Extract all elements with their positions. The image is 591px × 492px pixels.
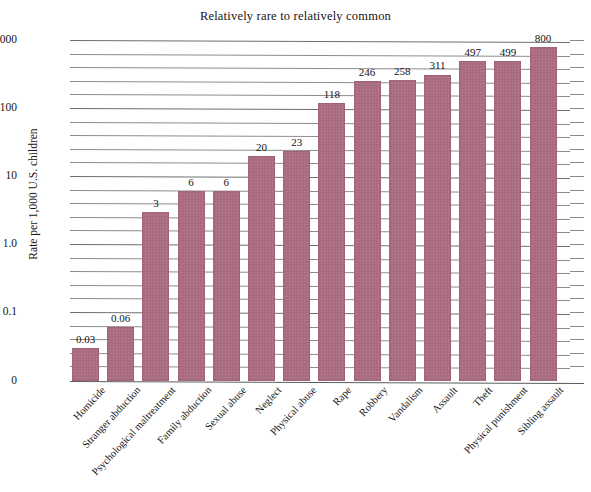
bar-value-label: 0.06 bbox=[101, 312, 140, 324]
tick-mark bbox=[570, 149, 584, 150]
bar-value-label: 0.03 bbox=[66, 333, 105, 345]
tick-mark bbox=[570, 285, 584, 286]
bar bbox=[142, 212, 169, 381]
tick-mark bbox=[570, 244, 584, 245]
x-axis-label: Neglect bbox=[252, 383, 282, 414]
tick-mark bbox=[570, 176, 584, 177]
y-tick-label: 0 bbox=[11, 374, 17, 386]
x-axis-label: Homicide bbox=[70, 383, 106, 421]
x-axis-label: Robbery bbox=[355, 383, 388, 417]
tick-mark bbox=[570, 162, 584, 163]
bar-value-label: 800 bbox=[524, 32, 563, 44]
bar-value-label: 23 bbox=[277, 136, 316, 148]
bar-value-label: 6 bbox=[172, 176, 211, 188]
tick-mark bbox=[570, 203, 584, 204]
bar-value-label: 20 bbox=[242, 141, 281, 153]
y-tick-label: 100 bbox=[0, 101, 17, 113]
bar bbox=[354, 81, 381, 381]
bar bbox=[318, 103, 345, 381]
x-axis-category-labels: HomicideStranger abductionPsychological … bbox=[70, 383, 591, 492]
bar bbox=[213, 191, 240, 381]
x-axis-label: Rape bbox=[330, 383, 353, 406]
y-tick-label: 0.1 bbox=[3, 305, 17, 317]
chart-figure: Relatively rare to relatively common Rat… bbox=[0, 0, 591, 492]
tick-mark bbox=[570, 40, 584, 41]
plot-area: 0.030.063662023118246258311497499800 bbox=[70, 40, 570, 381]
bar bbox=[389, 80, 416, 381]
tick-mark bbox=[570, 217, 584, 218]
tick-mark bbox=[570, 271, 584, 272]
tick-mark bbox=[570, 190, 584, 191]
tick-mark bbox=[570, 54, 584, 55]
bar bbox=[72, 348, 99, 381]
tick-mark bbox=[570, 67, 584, 68]
tick-mark bbox=[570, 353, 584, 354]
bar bbox=[248, 156, 275, 381]
tick-mark bbox=[570, 298, 584, 299]
bar-value-label: 118 bbox=[312, 88, 351, 100]
tick-mark bbox=[570, 366, 584, 367]
bar-value-label: 3 bbox=[136, 197, 175, 209]
bar-value-label: 311 bbox=[418, 59, 457, 71]
tick-mark bbox=[570, 312, 584, 313]
tick-mark bbox=[570, 339, 584, 340]
bar-value-label: 6 bbox=[207, 176, 246, 188]
x-axis-label: Vandalism bbox=[385, 383, 423, 423]
bar bbox=[424, 75, 451, 382]
tick-mark bbox=[570, 230, 584, 231]
x-axis-label: Theft bbox=[470, 383, 494, 407]
tick-mark bbox=[570, 108, 584, 109]
tick-mark bbox=[570, 122, 584, 123]
tick-mark bbox=[570, 258, 584, 259]
tick-mark bbox=[570, 326, 584, 327]
y-tick-label: 1000 bbox=[0, 33, 17, 45]
bar bbox=[107, 327, 134, 381]
tick-mark bbox=[570, 135, 584, 136]
bar bbox=[459, 61, 486, 381]
gridline-major bbox=[70, 40, 570, 43]
bar-value-label: 499 bbox=[488, 46, 527, 58]
bar-value-label: 258 bbox=[383, 65, 422, 77]
bar-value-label: 497 bbox=[453, 46, 492, 58]
bar bbox=[494, 61, 521, 381]
tick-mark bbox=[570, 94, 584, 95]
bar bbox=[283, 151, 310, 381]
chart-title: Relatively rare to relatively common bbox=[0, 9, 591, 24]
y-tick-label: 10 bbox=[6, 169, 18, 181]
y-axis-title: Rate per 1,000 U.S. children bbox=[27, 99, 39, 289]
x-axis-label: Physical punishment bbox=[461, 383, 529, 454]
x-axis-label: Assault bbox=[429, 383, 459, 414]
bar-value-label: 246 bbox=[348, 66, 387, 78]
bar bbox=[530, 47, 557, 381]
bar bbox=[178, 191, 205, 381]
tick-mark bbox=[570, 81, 584, 82]
y-tick-label: 1.0 bbox=[3, 237, 17, 249]
